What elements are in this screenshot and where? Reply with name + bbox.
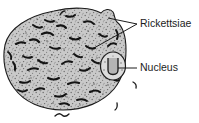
nucleus-inner-horseshoe bbox=[108, 58, 118, 75]
nucleus bbox=[101, 52, 126, 80]
label-rickettsiae: Rickettsiae bbox=[140, 17, 192, 29]
free-organism-bottom bbox=[55, 114, 69, 117]
label-nucleus: Nucleus bbox=[140, 61, 178, 73]
free-organism-bottom-right bbox=[115, 103, 117, 110]
rickettsiae-cell-figure: Rickettsiae Nucleus bbox=[0, 0, 199, 123]
free-organism-right bbox=[133, 82, 136, 88]
